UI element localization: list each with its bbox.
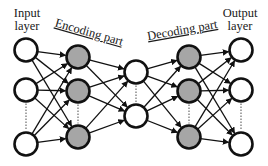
connection-arrow (197, 99, 232, 135)
connection-arrow (89, 96, 125, 112)
connection-arrow (37, 139, 65, 143)
connection-arrow (147, 60, 177, 68)
connection-arrow (195, 67, 235, 133)
input-layer-label-line2: layer (15, 19, 41, 33)
connection-arrow (147, 76, 177, 87)
connection-arrow (89, 120, 124, 133)
input-node (15, 39, 38, 62)
encoding-part-label: Encoding part (53, 16, 125, 49)
connection-arrow (37, 52, 65, 56)
output-node (230, 79, 253, 102)
connection-arrow (89, 60, 124, 69)
connection-arrow (34, 100, 69, 136)
output-layer-label-line1: Output (223, 6, 258, 20)
connection-arrow (200, 139, 228, 143)
connection-arrow (35, 57, 68, 83)
output-layer-label-line2: layer (228, 19, 254, 33)
input-layer-label-line1: Input (14, 6, 41, 20)
output-node (230, 133, 253, 156)
decoding-part-label: Decoding part (146, 17, 219, 43)
decoding-node (178, 80, 201, 103)
encoding-node (67, 126, 90, 149)
input-node (15, 133, 38, 156)
code-node (125, 105, 148, 128)
autoencoder-diagram: Input layer Output layer Encoding part D… (0, 0, 268, 166)
connection-arrow (37, 90, 65, 91)
output-node (230, 39, 253, 62)
decoding-node (178, 126, 201, 149)
decoding-node (178, 46, 201, 69)
input-node (15, 79, 38, 102)
code-node (125, 61, 148, 84)
connection-arrow (200, 90, 228, 91)
connection-arrow (200, 52, 228, 56)
neuron-nodes (15, 39, 253, 156)
connection-arrow (144, 66, 181, 107)
connection-arrow (147, 120, 178, 132)
encoding-node (67, 80, 90, 103)
encoding-node (67, 46, 90, 69)
